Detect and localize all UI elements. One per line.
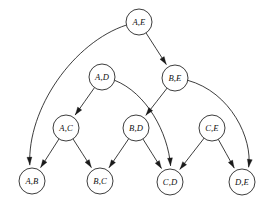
graph-canvas: A,EA,DB,EA,CB,DC,EA,BB,CC,DD,E (0, 0, 277, 206)
arrow-head-icon (85, 160, 91, 168)
node-ad[interactable]: A,D (89, 64, 115, 90)
arrow-head-icon (155, 160, 161, 168)
node-label: B,C (93, 176, 107, 186)
edge-BE-to-BD (146, 88, 167, 115)
edge-AC-to-AB (41, 139, 59, 167)
node-label: B,D (129, 123, 144, 133)
arrow-head-icon (247, 159, 252, 167)
arrow-head-icon (41, 160, 47, 168)
edge-line (30, 25, 126, 165)
node-label: A,D (94, 72, 110, 82)
arrow-head-icon (146, 108, 153, 116)
arrow-head-icon (109, 160, 115, 168)
arrow-head-icon (228, 160, 234, 168)
arrow-head-icon (180, 162, 187, 170)
node-label: B,E (169, 73, 183, 83)
edge-AE-to-BE (146, 33, 166, 64)
edge-BD-to-CD (143, 139, 161, 168)
node-cd[interactable]: C,D (157, 169, 183, 195)
edge-layer (27, 25, 252, 169)
node-de[interactable]: D,E (229, 169, 255, 195)
dag-diagram: A,EA,DB,EA,CB,DC,EA,BB,CC,DD,E (0, 0, 277, 206)
node-label: A,C (58, 123, 73, 133)
node-label: C,E (205, 123, 219, 133)
arrow-head-icon (27, 157, 32, 165)
node-label: A,B (25, 176, 40, 186)
node-bc[interactable]: B,C (87, 168, 113, 194)
node-bd[interactable]: B,D (123, 115, 149, 141)
arrow-head-icon (160, 57, 166, 65)
node-label: A,E (132, 17, 147, 27)
edge-AD-to-AC (75, 88, 94, 115)
node-label: D,E (234, 177, 250, 187)
node-ab[interactable]: A,B (19, 168, 45, 194)
edge-BD-to-BC (109, 139, 128, 168)
node-label: C,D (163, 177, 178, 187)
node-ae[interactable]: A,E (126, 9, 152, 35)
edge-AC-to-BC (73, 139, 91, 167)
node-ce[interactable]: C,E (199, 115, 225, 141)
node-layer: A,EA,DB,EA,CB,DC,EA,BB,CC,DD,E (19, 9, 255, 195)
node-ac[interactable]: A,C (53, 115, 79, 141)
edge-CE-to-DE (218, 139, 234, 167)
node-be[interactable]: B,E (162, 65, 188, 91)
arrow-head-icon (75, 107, 81, 115)
arrow-head-icon (167, 158, 172, 166)
edge-CE-to-CD (180, 138, 204, 169)
